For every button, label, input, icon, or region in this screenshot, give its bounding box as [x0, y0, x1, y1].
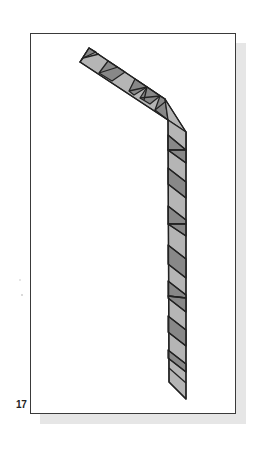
- bent-straw-icon: [0, 0, 255, 458]
- figure-number-label: 17: [16, 399, 27, 410]
